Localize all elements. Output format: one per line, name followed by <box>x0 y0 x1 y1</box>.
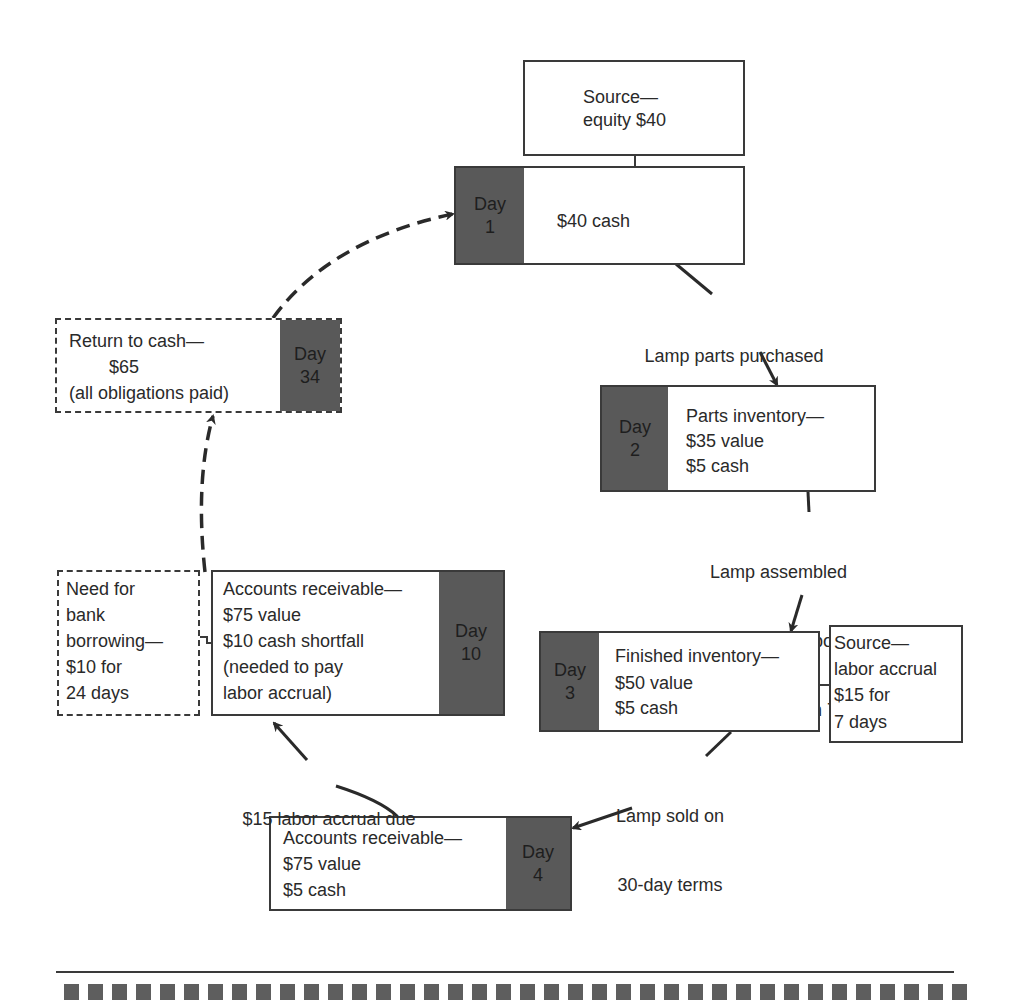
source-equity-line-1: Source— <box>583 86 658 109</box>
footer-square <box>664 984 679 1000</box>
day-4-badge: Day 4 <box>506 818 570 909</box>
day-34-badge: Day 34 <box>280 320 340 411</box>
day-3-badge: Day 3 <box>541 633 599 730</box>
footer-square <box>112 984 127 1000</box>
footer-square <box>280 984 295 1000</box>
arrow-to-day1 <box>273 214 453 318</box>
footer-square <box>904 984 919 1000</box>
edge-label-line: 30-day terms <box>600 874 740 897</box>
day-label: Day <box>619 416 651 439</box>
day1-line-1: $40 cash <box>557 210 630 233</box>
source-labor-line-4: 7 days <box>834 711 887 734</box>
footer-rule <box>56 971 954 973</box>
footer-square <box>304 984 319 1000</box>
day10-line-4: (needed to pay <box>223 656 343 679</box>
day34-line-2: $65 <box>69 356 139 379</box>
footer-square <box>808 984 823 1000</box>
node-day-34: Day 34 Return to cash— $65 (all obligati… <box>55 318 342 413</box>
day3-line-1: Finished inventory— <box>615 645 779 668</box>
day10-line-5: labor accrual) <box>223 682 332 705</box>
footer-square <box>592 984 607 1000</box>
footer-square <box>736 984 751 1000</box>
footer-square <box>496 984 511 1000</box>
day4-line-3: $5 cash <box>283 879 346 902</box>
day10-line-1: Accounts receivable— <box>223 578 402 601</box>
footer-square <box>472 984 487 1000</box>
day-number: 2 <box>630 439 640 462</box>
footer-square <box>400 984 415 1000</box>
day-label: Day <box>474 193 506 216</box>
day3-line-2: $50 value <box>615 672 693 695</box>
footer-square <box>88 984 103 1000</box>
edge-label-lamp-sold: Lamp sold on 30-day terms <box>600 759 740 920</box>
footer-square <box>520 984 535 1000</box>
footer-square <box>256 984 271 1000</box>
day10-line-3: $10 cash shortfall <box>223 630 364 653</box>
day34-line-3: (all obligations paid) <box>69 382 229 405</box>
source-labor-line-2: labor accrual <box>834 658 937 681</box>
source-labor-line-1: Source— <box>834 632 909 655</box>
footer-square <box>952 984 967 1000</box>
footer-square <box>568 984 583 1000</box>
footer-square <box>928 984 943 1000</box>
footer-square <box>544 984 559 1000</box>
bank-line-2: bank <box>66 604 105 627</box>
day-number: 1 <box>485 216 495 239</box>
node-day-1: Day 1 $40 cash <box>454 166 745 265</box>
footer-square <box>616 984 631 1000</box>
day-1-badge: Day 1 <box>456 168 524 263</box>
arrow-to-day10 <box>274 723 307 760</box>
node-day-10: Day 10 Accounts receivable— $75 value $1… <box>211 570 505 716</box>
source-labor-line-3: $15 for <box>834 684 890 707</box>
bank-line-1: Need for <box>66 578 135 601</box>
node-source-labor-accrual: Source— labor accrual $15 for 7 days <box>829 625 963 743</box>
footer-square <box>856 984 871 1000</box>
day3-line-3: $5 cash <box>615 697 678 720</box>
node-bank-borrowing: Need for bank borrowing— $10 for 24 days <box>57 570 200 716</box>
day-label: Day <box>554 659 586 682</box>
footer-square <box>784 984 799 1000</box>
day2-line-1: Parts inventory— <box>686 405 824 428</box>
day-number: 4 <box>533 864 543 887</box>
footer-square <box>832 984 847 1000</box>
edge-label-line: $15 labor accrual due <box>214 808 444 831</box>
day-number: 34 <box>300 366 320 389</box>
day-number: 3 <box>565 682 575 705</box>
footer-square <box>64 984 79 1000</box>
footer-square <box>208 984 223 1000</box>
day-label: Day <box>294 343 326 366</box>
link-day1-out <box>676 264 712 294</box>
day-10-badge: Day 10 <box>439 572 503 714</box>
day10-line-2: $75 value <box>223 604 301 627</box>
day2-line-2: $35 value <box>686 430 764 453</box>
day-label: Day <box>455 620 487 643</box>
day-number: 10 <box>461 643 481 666</box>
arrow-to-day34 <box>201 416 213 572</box>
footer-square <box>352 984 367 1000</box>
edge-label-line: Lamp sold on <box>600 805 740 828</box>
footer-square <box>184 984 199 1000</box>
node-day-3: Day 3 Finished inventory— $50 value $5 c… <box>539 631 820 732</box>
edge-label-labor-accrual-due: $15 labor accrual due <box>214 762 444 854</box>
day-2-badge: Day 2 <box>602 387 668 490</box>
day2-line-3: $5 cash <box>686 455 749 478</box>
source-equity-line-2: equity $40 <box>583 109 666 132</box>
bank-line-4: $10 for <box>66 656 122 679</box>
day-label: Day <box>522 841 554 864</box>
footer-square-strip <box>64 984 967 1000</box>
edge-label-line: Lamp assembled <box>690 561 886 584</box>
footer-square <box>880 984 895 1000</box>
footer-square <box>232 984 247 1000</box>
footer-square <box>424 984 439 1000</box>
bank-line-5: 24 days <box>66 682 129 705</box>
footer-square <box>640 984 655 1000</box>
link-day2-out <box>808 492 809 512</box>
footer-square <box>688 984 703 1000</box>
footer-square <box>760 984 775 1000</box>
footer-square <box>136 984 151 1000</box>
footer-square <box>712 984 727 1000</box>
day4-line-2: $75 value <box>283 853 361 876</box>
footer-square <box>376 984 391 1000</box>
bank-line-3: borrowing— <box>66 630 163 653</box>
footer-square <box>160 984 175 1000</box>
